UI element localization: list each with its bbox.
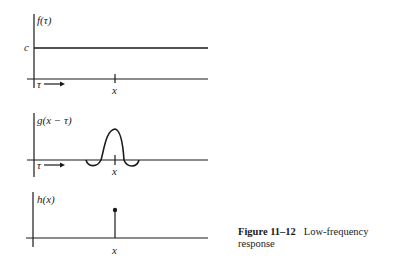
figure-caption: Figure 11–12 Low-frequency response — [238, 226, 398, 250]
f-arrow-head-icon — [60, 82, 65, 87]
f-x-label: x — [112, 85, 117, 96]
h-impulse-dot — [113, 208, 117, 212]
f-level-label: c — [24, 42, 29, 53]
figure-number: Figure 11–12 — [238, 226, 296, 237]
h-ylabel: h(x) — [37, 194, 55, 205]
g-tau-label: τ — [37, 160, 41, 171]
f-tau-label: τ — [37, 79, 41, 90]
g-ylabel: g(x − τ) — [37, 115, 72, 126]
g-arrow-head-icon — [60, 163, 65, 168]
f-ylabel: f(τ) — [37, 15, 51, 26]
h-x-label: x — [112, 245, 117, 256]
g-x-label: x — [112, 166, 117, 177]
